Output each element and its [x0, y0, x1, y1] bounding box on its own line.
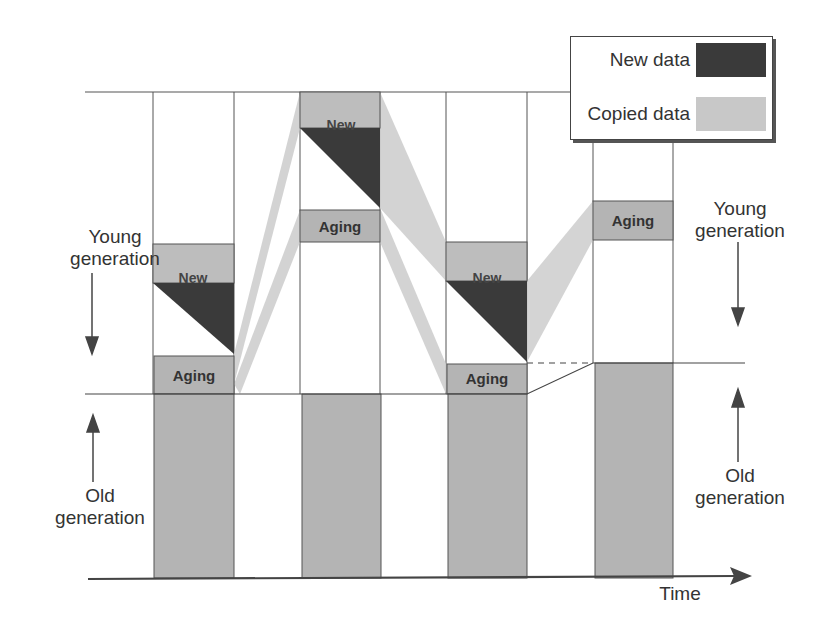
- legend-label: New data: [610, 49, 690, 71]
- young-down-arrow-icon-right: [732, 308, 744, 325]
- right-arrows: [732, 242, 744, 462]
- label-line: generation: [55, 248, 175, 270]
- label-line: Old: [680, 465, 800, 487]
- label-line: generation: [45, 507, 155, 529]
- old-up-arrow-icon-right: [732, 389, 744, 407]
- column-2: New Aging: [300, 92, 381, 578]
- aging-label-4: Aging: [612, 212, 655, 229]
- new-label-1: New: [179, 270, 208, 286]
- old-gen-block-1: [154, 394, 234, 578]
- legend-item-new-data: New data: [610, 43, 766, 77]
- time-axis-label: Time: [645, 583, 715, 605]
- column-4: Aging: [593, 201, 673, 578]
- old-up-arrow-icon: [87, 415, 99, 432]
- copied-data-swatch: [696, 97, 766, 131]
- legend-item-copied-data: Copied data: [588, 97, 766, 131]
- label-line: generation: [680, 220, 800, 242]
- new-data-triangle-1: [153, 283, 234, 354]
- young-down-arrow-icon: [86, 337, 98, 354]
- aging-label-1: Aging: [173, 367, 216, 384]
- left-young-generation-label: Young generation: [55, 226, 175, 270]
- right-young-generation-label: Young generation: [680, 198, 800, 242]
- copied-data-flows: [234, 92, 593, 394]
- new-data-triangle-2: [300, 128, 380, 208]
- old-gen-block-3: [448, 394, 527, 578]
- new-label-2: New: [327, 117, 356, 133]
- old-gen-block-4: [595, 363, 673, 578]
- legend-label: Copied data: [588, 103, 690, 125]
- aging-label-3: Aging: [466, 370, 509, 387]
- left-old-generation-label: Old generation: [45, 485, 155, 529]
- label-line: Young: [680, 198, 800, 220]
- label-line: Young: [55, 226, 175, 248]
- label-line: Old: [45, 485, 155, 507]
- new-data-triangle-3: [446, 281, 527, 362]
- column-1: New Aging: [153, 244, 234, 578]
- new-data-swatch: [696, 43, 766, 77]
- new-label-3: New: [473, 270, 502, 286]
- label-line: generation: [680, 487, 800, 509]
- aging-label-2: Aging: [319, 218, 362, 235]
- column-3: New Aging: [446, 242, 527, 578]
- legend: New data Copied data: [570, 36, 773, 140]
- copy-flow-3: [527, 201, 593, 362]
- old-gen-block-2: [302, 394, 381, 578]
- right-old-generation-label: Old generation: [680, 465, 800, 509]
- left-arrows: [86, 273, 99, 482]
